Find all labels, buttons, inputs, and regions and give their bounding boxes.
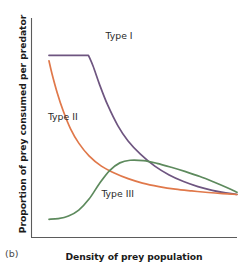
series-line-type-i — [49, 55, 237, 194]
figure-panel: Type IType IIType III Proportion of prey… — [0, 0, 245, 274]
curve-group — [49, 55, 237, 219]
y-axis-label: Proportion of prey consumed per predator — [14, 8, 30, 240]
x-axis-label: Density of prey population — [31, 251, 237, 262]
series-line-type-ii — [49, 61, 237, 195]
panel-label: (b) — [5, 248, 18, 259]
functional-response-chart: Type IType IIType III — [0, 0, 245, 274]
series-annotation-type-iii: Type III — [100, 188, 134, 199]
series-annotation-type-i: Type I — [105, 30, 133, 41]
series-annotation-type-ii: Type II — [47, 111, 78, 122]
